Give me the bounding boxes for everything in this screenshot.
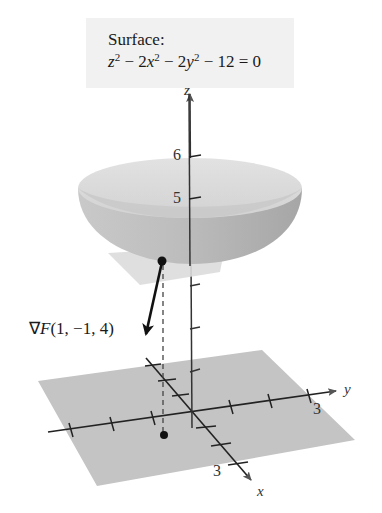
y-tick-3: 3: [313, 400, 321, 418]
x-tick-3: 3: [213, 462, 221, 480]
diagram-canvas: [0, 0, 382, 513]
z-axis-over-surface: [189, 94, 190, 266]
z-tick-5: 5: [173, 189, 181, 207]
gradient-label: ∇F(1, −1, 4): [29, 318, 114, 339]
z-tick-6: 6: [173, 146, 181, 164]
z-axis-label: z: [184, 82, 190, 99]
x-axis-label: x: [257, 483, 264, 500]
y-axis-label: y: [344, 381, 351, 398]
projected-point: [160, 431, 168, 439]
surface-point: [158, 257, 167, 266]
